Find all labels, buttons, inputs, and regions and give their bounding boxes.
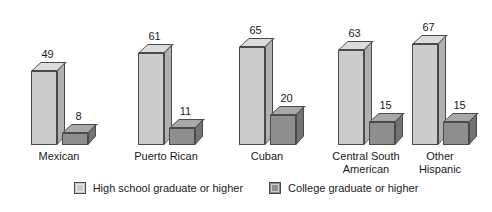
bar-front-face: [369, 122, 395, 145]
legend-label: High school graduate or higher: [93, 182, 243, 194]
category-label-line: Other: [419, 150, 461, 163]
bar-value-label: 15: [379, 99, 391, 111]
category-label-line: Mexican: [39, 150, 80, 163]
bar-college: [369, 122, 395, 145]
category-label-cuban: Cuban: [251, 150, 283, 163]
chart-legend: High school graduate or higherCollege gr…: [0, 182, 492, 194]
bar-high-school: [338, 50, 364, 145]
category-label-line: American: [332, 163, 399, 176]
legend-item[interactable]: College graduate or higher: [269, 182, 418, 194]
grouped-bar-chart: 498Mexican6111Puerto Rican6520Cuban6315C…: [0, 0, 492, 212]
bar-high-school: [31, 71, 57, 145]
bar-high-school: [239, 47, 265, 145]
category-label-mexican: Mexican: [39, 150, 80, 163]
bar-college: [62, 133, 88, 145]
bar-value-label: 61: [148, 30, 160, 42]
bar-front-face: [239, 47, 265, 145]
category-label-line: Central South: [332, 150, 399, 163]
dark-gray-swatch-icon: [269, 182, 281, 194]
bar-front-face: [443, 122, 469, 145]
bar-front-face: [31, 71, 57, 145]
category-label-puerto-rican: Puerto Rican: [134, 150, 198, 163]
category-label-line: Hispanic: [419, 163, 461, 176]
bar-high-school: [412, 44, 438, 145]
bar-front-face: [338, 50, 364, 145]
bar-value-label: 8: [75, 110, 81, 122]
category-label-central-south-american: Central SouthAmerican: [332, 150, 399, 176]
bar-group: 6315Central SouthAmerican: [338, 0, 403, 150]
bar-front-face: [138, 53, 164, 145]
bar-high-school: [138, 53, 164, 145]
legend-label: College graduate or higher: [288, 182, 418, 194]
bar-value-label: 15: [453, 99, 465, 111]
bar-group: 6111Puerto Rican: [138, 0, 203, 150]
bar-group: 498Mexican: [31, 0, 96, 150]
light-gray-swatch-icon: [74, 182, 86, 194]
bar-value-label: 11: [180, 105, 191, 117]
bar-group: 6715OtherHispanic: [412, 0, 477, 150]
bar-front-face: [169, 128, 195, 145]
bar-college: [270, 115, 296, 145]
category-label-line: Puerto Rican: [134, 150, 198, 163]
bar-group: 6520Cuban: [239, 0, 304, 150]
bar-college: [443, 122, 469, 145]
bar-value-label: 63: [348, 27, 360, 39]
bar-front-face: [412, 44, 438, 145]
category-label-other-hispanic: OtherHispanic: [419, 150, 461, 176]
legend-item[interactable]: High school graduate or higher: [74, 182, 243, 194]
bar-front-face: [62, 133, 88, 145]
bar-value-label: 65: [249, 24, 261, 36]
bar-value-label: 67: [422, 21, 434, 33]
bar-value-label: 20: [280, 92, 292, 104]
category-label-line: Cuban: [251, 150, 283, 163]
bar-college: [169, 128, 195, 145]
bar-value-label: 49: [41, 48, 53, 60]
bar-front-face: [270, 115, 296, 145]
plot-area: 498Mexican6111Puerto Rican6520Cuban6315C…: [0, 0, 492, 150]
